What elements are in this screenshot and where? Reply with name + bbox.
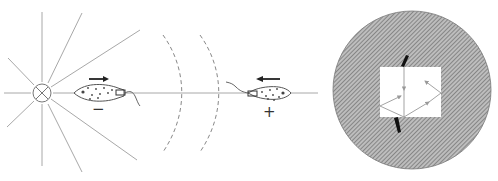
diagram-canvas: − + — [0, 0, 498, 181]
minus-sign-label: − — [92, 100, 105, 118]
window-square — [380, 67, 441, 117]
arrow-left-icon — [256, 76, 280, 82]
cell-left — [74, 84, 140, 106]
arrow-right-icon — [89, 76, 109, 82]
cell-right — [226, 82, 291, 101]
crossed-circle-icon — [33, 84, 51, 102]
plus-sign-label: + — [263, 103, 276, 121]
